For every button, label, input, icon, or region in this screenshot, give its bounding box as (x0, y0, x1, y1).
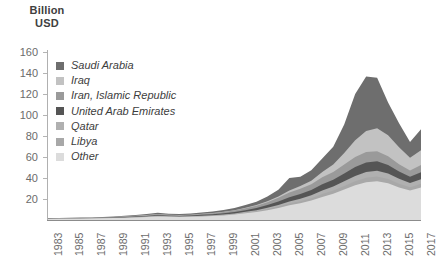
x-tick-label-1997: 1997 (206, 233, 216, 256)
x-tick-label-1999: 1999 (228, 233, 238, 256)
y-tick-label-60: 60 (8, 152, 38, 163)
x-tick-label-1985: 1985 (74, 233, 84, 256)
x-tick-label-1989: 1989 (118, 233, 128, 256)
legend-label: Qatar (71, 121, 99, 132)
legend-label: United Arab Emirates (71, 106, 175, 117)
legend-item-libya: Libya (56, 134, 176, 149)
x-tick-label-2011: 2011 (360, 233, 370, 256)
x-tick-label-2007: 2007 (316, 233, 326, 256)
x-tick-label-2013: 2013 (382, 233, 392, 256)
legend-swatch-saudi-arabia (56, 62, 64, 70)
legend-label: Iraq (71, 75, 90, 86)
legend-item-iraq: Iraq (56, 73, 176, 88)
x-tick-label-2005: 2005 (294, 233, 304, 256)
y-tick-label-80: 80 (8, 131, 38, 142)
legend-swatch-iraq (56, 77, 64, 85)
legend-label: Libya (71, 136, 97, 147)
legend-swatch-qatar (56, 122, 64, 130)
y-tick-label-160: 160 (8, 47, 38, 58)
legend-swatch-other (56, 153, 64, 161)
x-tick-label-1995: 1995 (184, 233, 194, 256)
x-tick-label-1993: 1993 (162, 233, 172, 256)
legend-item-qatar: Qatar (56, 119, 176, 134)
y-tick-label-20: 20 (8, 194, 38, 205)
legend-item-other: Other (56, 149, 176, 164)
legend-item-united-arab-emirates: United Arab Emirates (56, 104, 176, 119)
x-tick-label-1987: 1987 (96, 233, 106, 256)
legend-item-iran-islamic-republic: Iran, Islamic Republic (56, 88, 176, 103)
y-tick-label-100: 100 (8, 110, 38, 121)
y-tick-label-140: 140 (8, 68, 38, 79)
x-tick-label-2015: 2015 (404, 233, 414, 256)
x-tick-label-2009: 2009 (338, 233, 348, 256)
y-tick-label-40: 40 (8, 173, 38, 184)
y-tick-label-120: 120 (8, 89, 38, 100)
x-tick-label-2017: 2017 (426, 233, 436, 256)
legend-item-saudi-arabia: Saudi Arabia (56, 58, 176, 73)
y-axis-line (47, 50, 48, 221)
x-tick-label-2001: 2001 (250, 233, 260, 256)
chart-legend: Saudi ArabiaIraqIran, Islamic RepublicUn… (56, 58, 176, 164)
legend-swatch-uae (56, 107, 64, 115)
x-tick-label-2003: 2003 (272, 233, 282, 256)
x-tick-label-1983: 1983 (53, 233, 63, 256)
x-tick-label-1991: 1991 (140, 233, 150, 256)
x-axis-line (47, 220, 421, 221)
legend-label: Other (71, 151, 99, 162)
legend-label: Saudi Arabia (71, 60, 134, 71)
legend-label: Iran, Islamic Republic (71, 90, 176, 101)
legend-swatch-libya (56, 138, 64, 146)
legend-swatch-iran (56, 92, 64, 100)
